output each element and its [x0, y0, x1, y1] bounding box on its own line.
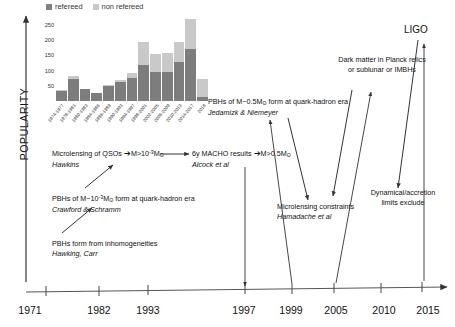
arrow-ligo-down — [398, 40, 418, 188]
arrow-crawford-to-hawkins — [85, 165, 113, 188]
arrow-2005-to-darkmatter — [336, 92, 371, 283]
connector-arrows — [62, 40, 424, 286]
timeline-year-1971: 1971 — [18, 304, 41, 316]
figure-vector-overlay — [0, 0, 455, 327]
arrow-darkmatter-to-dynamical — [333, 90, 352, 196]
timeline-figure: POPULARITY refereed non refereed 5010015… — [0, 0, 455, 327]
timeline-year-1982: 1982 — [87, 304, 110, 316]
arrow-jedamizk-to-constraints — [288, 118, 308, 200]
timeline-year-2010: 2010 — [372, 304, 395, 316]
time-axis-line — [26, 282, 447, 296]
arrow-inhomogeneities-to-crawford — [62, 208, 92, 233]
timeline-year-1997: 1997 — [232, 304, 255, 316]
timeline-year-2005: 2005 — [324, 304, 347, 316]
timeline-year-1993: 1993 — [136, 304, 159, 316]
timeline-year-1999: 1999 — [279, 304, 302, 316]
timeline-year-2015: 2015 — [416, 304, 439, 316]
arrow-1999-to-jedamizk — [270, 120, 292, 284]
